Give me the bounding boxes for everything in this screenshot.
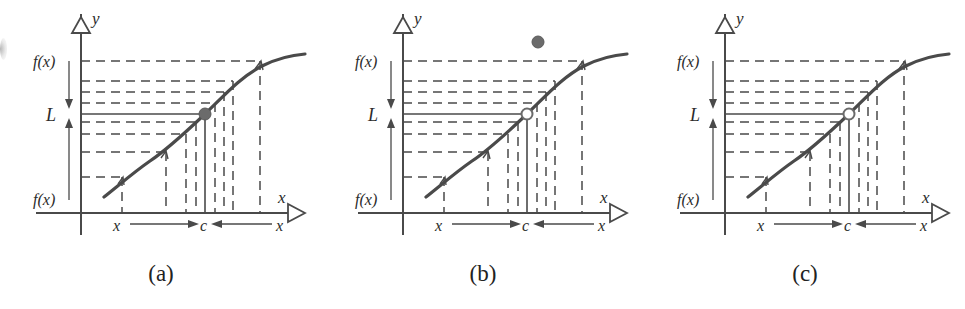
c-label: c [522, 217, 529, 234]
y-axis-arrowhead [394, 17, 412, 33]
lower-span-arrowhead [65, 118, 73, 128]
panel-caption-c: (c) [792, 261, 818, 286]
limit-label: L [45, 105, 56, 125]
drop-lines-left [444, 122, 518, 213]
panel-a-diagram: y x f(x) f(x) L x c x (a) [0, 0, 322, 309]
panel-b: y x f(x) f(x) L x c x (b) [322, 0, 644, 309]
x-right-label: x [919, 217, 927, 234]
y-axis-label: y [734, 9, 744, 28]
right-approach-arrowhead [533, 220, 544, 228]
right-approach-arrowhead [855, 220, 866, 228]
left-approach-arrowhead [510, 220, 521, 228]
displaced-point-filled [532, 36, 544, 48]
f-of-x-upper-label: f(x) [677, 53, 699, 71]
f-of-x-lower-label: f(x) [677, 191, 699, 209]
panel-c-diagram: y x f(x) f(x) L x c x (c) [644, 0, 965, 309]
y-axis-label: y [412, 9, 422, 28]
upper-span-arrowhead [65, 99, 73, 109]
x-axis-arrowhead [610, 204, 627, 222]
f-of-x-lower-label: f(x) [33, 191, 55, 209]
x-axis-label: x [921, 188, 930, 207]
x-right-label: x [597, 217, 605, 234]
lower-span-arrowhead [709, 118, 717, 128]
point-at-c-filled [199, 108, 211, 120]
x-left-label: x [756, 217, 764, 234]
drop-lines-left [766, 122, 840, 213]
limit-label: L [367, 105, 378, 125]
lower-span-arrowhead [387, 118, 395, 128]
right-approach-arrowhead [211, 220, 222, 228]
x-axis-arrowhead [288, 204, 305, 222]
f-of-x-lower-label: f(x) [355, 191, 377, 209]
x-axis-label: x [277, 188, 286, 207]
panel-caption-b: (b) [470, 261, 497, 286]
x-left-label: x [434, 217, 442, 234]
figure-root: y x f(x) f(x) L x c x (a) [0, 0, 965, 309]
y-axis-label: y [90, 9, 100, 28]
x-right-label: x [275, 217, 283, 234]
y-axis-arrowhead [72, 17, 90, 33]
x-axis-arrowhead [932, 204, 949, 222]
upper-span-arrowhead [387, 99, 395, 109]
x-axis-label: x [599, 188, 608, 207]
drop-lines-left [122, 122, 196, 213]
point-at-c-open [522, 109, 533, 120]
limit-label: L [689, 105, 700, 125]
left-approach-arrowhead [832, 220, 843, 228]
panel-a: y x f(x) f(x) L x c x (a) [0, 0, 322, 309]
upper-span-arrowhead [709, 99, 717, 109]
panel-c: y x f(x) f(x) L x c x (c) [644, 0, 965, 309]
panel-caption-a: (a) [148, 261, 174, 286]
left-approach-arrowhead [188, 220, 199, 228]
panel-b-diagram: y x f(x) f(x) L x c x (b) [322, 0, 644, 309]
c-label: c [844, 217, 851, 234]
f-of-x-upper-label: f(x) [33, 53, 55, 71]
f-of-x-upper-label: f(x) [355, 53, 377, 71]
point-at-c-open [844, 109, 855, 120]
y-axis-arrowhead [716, 17, 734, 33]
x-left-label: x [112, 217, 120, 234]
c-label: c [200, 217, 207, 234]
